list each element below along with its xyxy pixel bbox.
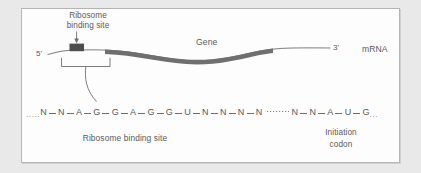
- sequence-bond: [49, 113, 56, 114]
- sequence-left-bases: NNAGGAGGUNNNN: [40, 107, 262, 117]
- rbs-top-callout-line2: binding site: [55, 21, 121, 31]
- sequence-base: N: [58, 107, 65, 117]
- figure-stage: Ribosome binding site 5' Gene 3' mRNA ..…: [0, 0, 421, 173]
- sequence-gap-ellipsis: [265, 111, 288, 112]
- sequence-base: N: [256, 107, 263, 117]
- sequence-base: U: [184, 107, 191, 117]
- sequence-bond: [157, 113, 164, 114]
- sequence-bond: [353, 113, 360, 114]
- initiation-codon-line1: Initiation: [310, 128, 372, 138]
- sequence-bond: [84, 113, 91, 114]
- sequence-bond: [193, 113, 200, 114]
- sequence-base: G: [147, 107, 154, 117]
- sequence-bond: [318, 113, 325, 114]
- five-prime-label: 5': [36, 49, 42, 59]
- sequence-base: N: [292, 107, 299, 117]
- nucleotide-sequence: ..... NNAGGAGGUNNNN NNAUG ...: [26, 103, 378, 121]
- sequence-bond: [229, 113, 236, 114]
- sequence-bond: [67, 113, 74, 114]
- mrna-label: mRNA: [362, 44, 388, 54]
- rbs-top-callout-line1: Ribosome: [55, 11, 121, 21]
- sequence-base: G: [363, 107, 370, 117]
- sequence-base: N: [238, 107, 245, 117]
- sequence-base: G: [166, 107, 173, 117]
- sequence-base: A: [327, 107, 333, 117]
- sequence-right-bases: NNAUG: [292, 107, 370, 117]
- sequence-bond: [121, 113, 128, 114]
- sequence-bond: [211, 113, 218, 114]
- sequence-bond: [102, 113, 109, 114]
- three-prime-label: 3': [333, 43, 339, 53]
- sequence-bond: [175, 113, 182, 114]
- sequence-bond: [138, 113, 145, 114]
- sequence-base: A: [130, 107, 136, 117]
- rbs-bottom-callout: Ribosome binding site: [45, 133, 205, 143]
- sequence-base: A: [76, 107, 82, 117]
- sequence-base: G: [93, 107, 100, 117]
- sequence-bond: [335, 113, 342, 114]
- sequence-base: N: [309, 107, 316, 117]
- sequence-base: N: [220, 107, 227, 117]
- sequence-base: U: [345, 107, 352, 117]
- sequence-leading-ellipsis: .....: [26, 110, 40, 119]
- gene-label: Gene: [196, 37, 217, 47]
- sequence-base: N: [202, 107, 209, 117]
- sequence-bond: [247, 113, 254, 114]
- sequence-base: N: [40, 107, 47, 117]
- initiation-codon-line2: codon: [310, 140, 372, 150]
- sequence-bond: [300, 113, 307, 114]
- sequence-base: G: [112, 107, 119, 117]
- sequence-trailing-ellipsis: ...: [370, 110, 378, 119]
